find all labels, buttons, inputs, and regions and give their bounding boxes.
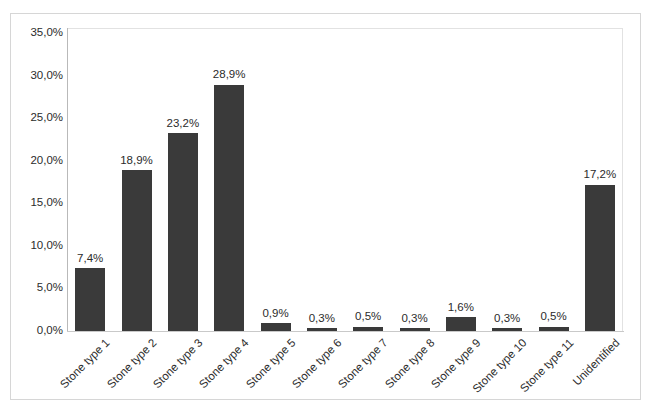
x-axis-tick-labels: Stone type 1Stone type 2Stone type 3Ston…: [11, 14, 642, 401]
chart-figure: 35,0%30,0%25,0%20,0%15,0%10,0%5,0%0,0% 7…: [10, 13, 641, 400]
